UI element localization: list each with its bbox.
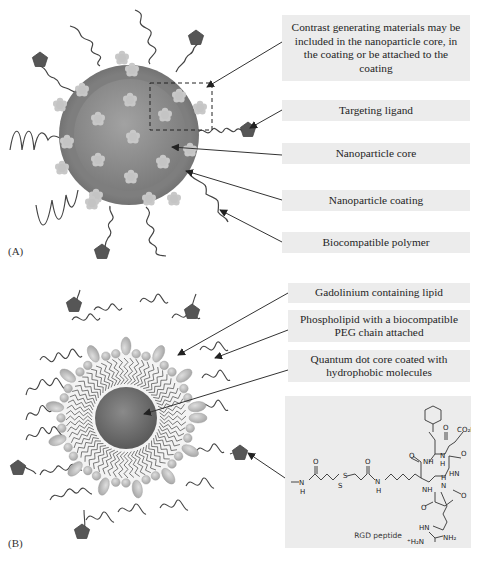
rgd-structure-drawing: N H O S S O N H O NH NH N H O CO₂H O HN … (285, 396, 471, 548)
atom-hn: HN (449, 470, 460, 478)
quantum-dot-core (95, 387, 157, 449)
callout-gadolinium-lipid: Gadolinium containing lipid (288, 283, 470, 303)
panel-b-micelle (10, 290, 288, 539)
targeting-ligand-icon (94, 244, 109, 259)
atom-s: S (343, 472, 348, 480)
panel-b-label: (B) (8, 537, 23, 549)
callout-targeting-ligand: Targeting ligand (282, 100, 470, 121)
callout-contrast-materials: Contrast generating materials may be inc… (282, 15, 470, 81)
targeting-ligand-icon (74, 524, 89, 539)
callout-peg-phospholipid: Phospholipid with a biocompatible PEG ch… (288, 310, 470, 342)
atom-o: O (421, 504, 427, 512)
targeting-ligand-icon (32, 52, 47, 67)
targeting-ligand-icon (240, 122, 255, 137)
atom-n: N (375, 478, 380, 486)
atom-s: S (338, 482, 343, 490)
atom-h: H (300, 488, 305, 496)
atom-n: N (441, 482, 446, 490)
rgd-caption: RGD peptide (285, 531, 471, 540)
atom-n: N (299, 479, 304, 487)
panel-a-label: (A) (8, 245, 23, 257)
atom-nh: NH (423, 458, 434, 466)
atom-nh: NH (422, 486, 433, 494)
targeting-ligand-icon (184, 304, 199, 319)
callout-quantum-dot-core: Quantum dot core coated with hydrophobic… (288, 350, 470, 382)
atom-o: O (443, 424, 449, 432)
targeting-ligand-icon (10, 460, 25, 475)
atom-co2h: CO₂H (457, 426, 471, 434)
callout-nanoparticle-core: Nanoparticle core (282, 143, 470, 164)
atom-o: O (409, 452, 415, 460)
targeting-ligand-icon (232, 445, 247, 460)
callout-nanoparticle-coating: Nanoparticle coating (282, 190, 470, 211)
atom-o: O (461, 450, 467, 458)
rgd-peptide-structure: N H O S S O N H O NH NH N H O CO₂H O HN … (285, 396, 471, 548)
callout-biocompatible-polymer: Biocompatible polymer (282, 232, 470, 253)
atom-n: N (440, 452, 445, 460)
targeting-ligand-icon (66, 297, 81, 312)
atom-o: O (313, 458, 319, 466)
atom-o: O (365, 458, 371, 466)
atom-o: O (461, 492, 467, 500)
atom-h: H (441, 474, 446, 482)
targeting-ligand-icon (188, 30, 203, 45)
panel-a-nanoparticle (10, 10, 282, 259)
atom-h: H (440, 460, 445, 468)
atom-h: H (376, 487, 381, 495)
